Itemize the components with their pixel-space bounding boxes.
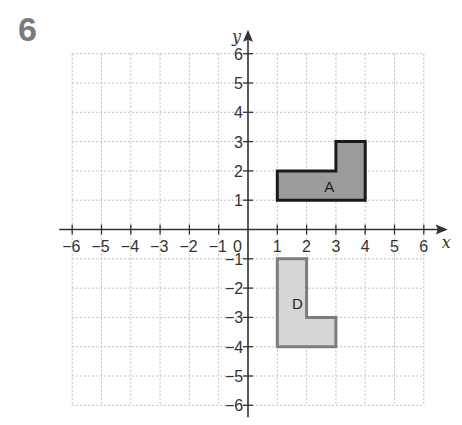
- y-tick-label: 5: [234, 75, 243, 92]
- x-tick-label: −6: [62, 238, 80, 255]
- x-tick-label: 6: [419, 238, 428, 255]
- y-tick-label: −2: [225, 280, 243, 297]
- shape-label-a: A: [324, 178, 334, 195]
- x-tick-label: −4: [121, 238, 139, 255]
- y-tick-label: −6: [225, 397, 243, 414]
- x-tick-label: 3: [331, 238, 340, 255]
- tick-labels: −6−5−4−3−2−1123456654321−1−2−3−4−5−60xy: [62, 27, 451, 415]
- x-tick-label: 2: [302, 238, 311, 255]
- y-tick-label: 3: [234, 134, 243, 151]
- shapes-layer: AD: [277, 142, 365, 347]
- x-tick-label: −2: [179, 238, 197, 255]
- x-tick-label: −3: [150, 238, 168, 255]
- x-tick-label: 5: [390, 238, 399, 255]
- x-tick-label: 4: [361, 238, 370, 255]
- x-tick-label: 1: [273, 238, 282, 255]
- axes: [59, 30, 448, 418]
- shape-d: [277, 259, 336, 347]
- y-tick-label: −5: [225, 368, 243, 385]
- coordinate-plane: AD −6−5−4−3−2−1123456654321−1−2−3−4−5−60…: [0, 0, 462, 425]
- shape-a: [277, 142, 365, 201]
- y-tick-label: 1: [234, 192, 243, 209]
- y-axis-label: y: [231, 27, 242, 46]
- shape-label-d: D: [292, 295, 303, 312]
- origin-label: 0: [233, 238, 242, 255]
- y-tick-label: 4: [234, 104, 243, 121]
- y-tick-label: 2: [234, 163, 243, 180]
- y-tick-label: −3: [225, 309, 243, 326]
- x-axis-label: x: [442, 233, 451, 252]
- y-tick-label: −4: [225, 339, 243, 356]
- y-tick-label: 6: [234, 46, 243, 63]
- x-tick-label: −5: [92, 238, 110, 255]
